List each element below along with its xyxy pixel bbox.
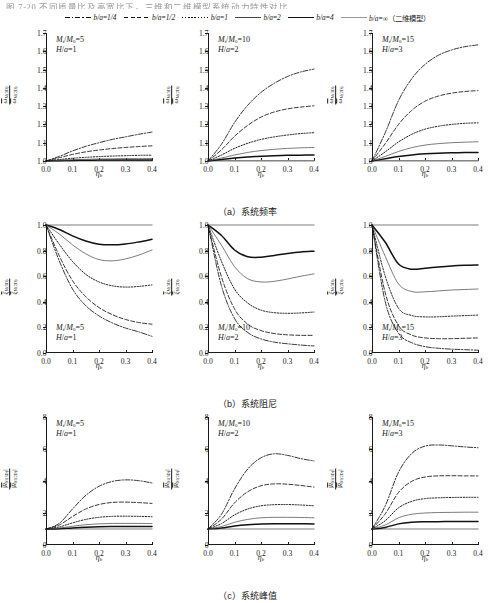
- legend-item-2: b/a=1: [182, 13, 228, 22]
- y-tick-label-a2-7: 1.7: [169, 29, 209, 38]
- x-tick-c3-4: [478, 542, 479, 546]
- y-tick-label-b3-5: 1.0: [333, 221, 373, 230]
- legend-item-1: b/a=1/2: [124, 13, 176, 22]
- series-b2-thin: [208, 225, 314, 282]
- x-tick-label-a3-1: 0.1: [394, 165, 404, 174]
- chart-panel-c3: |RM(3D)||RM(2D)|024680.00.10.20.30.4Mt/M…: [330, 411, 495, 583]
- series-a3-dashdot: [372, 45, 478, 161]
- y-tick-label-c2-2: 4: [169, 477, 209, 486]
- x-tick-label-b3-4: 0.4: [473, 357, 483, 366]
- legend-label-2: b/a=1: [211, 13, 228, 22]
- x-tick-label-c3-4: 0.4: [473, 549, 483, 558]
- y-tick-label-a1-4: 1.4: [7, 83, 47, 92]
- legend-label-5: b/a=∞（二维模型）: [369, 12, 430, 23]
- y-axis-label-b1: ξM(3D)ξM(2D): [1, 278, 19, 295]
- panel-annotation-a2: Mt/M0=10H/a=2: [218, 35, 250, 56]
- y-tick-label-b2-3: 0.6: [169, 272, 209, 281]
- y-tick-label-a2-4: 1.4: [169, 83, 209, 92]
- y-tick-label-c3-1: 2: [333, 509, 373, 518]
- row-caption-c: （c）系统峰值: [0, 589, 495, 603]
- y-tick-label-b2-5: 1.0: [169, 221, 209, 230]
- x-tick-b1-4: [152, 350, 153, 354]
- panel-annotation-b1: Mt/M0=5H/a=1: [56, 323, 84, 344]
- series-a2-dash: [208, 106, 314, 161]
- x-axis-label-a1: ηb: [96, 169, 102, 178]
- y-tick-label-c1-2: 4: [7, 477, 47, 486]
- x-tick-label-c1-1: 0.1: [68, 549, 78, 558]
- chart-panel-b3: ξM(3D)ξM(2D)0.00.20.40.60.81.00.00.10.20…: [330, 219, 495, 391]
- series-b3-thin: [372, 225, 478, 292]
- y-tick-label-b3-1: 0.2: [333, 323, 373, 332]
- y-tick-label-b2-4: 0.8: [169, 246, 209, 255]
- panel-grid: ωM(3D)ωM(2D)1.01.11.21.31.41.51.61.70.00…: [0, 27, 495, 603]
- x-axis-label-a3: ηb: [422, 169, 428, 178]
- y-tick-label-b1-5: 1.0: [7, 221, 47, 230]
- x-tick-label-a2-0: 0.0: [203, 165, 213, 174]
- legend-line-3: [235, 17, 261, 18]
- y-tick-label-b2-2: 0.4: [169, 297, 209, 306]
- x-tick-label-a2-4: 0.4: [309, 165, 319, 174]
- legend-item-3: b/a=2: [235, 13, 281, 22]
- series-b1-dash: [46, 225, 152, 324]
- series-b2-dash: [208, 225, 314, 335]
- y-tick-label-a1-2: 1.2: [7, 120, 47, 129]
- x-tick-label-a3-0: 0.0: [367, 165, 377, 174]
- x-tick-label-b1-4: 0.4: [147, 357, 157, 366]
- x-tick-label-c2-3: 0.3: [283, 549, 293, 558]
- y-tick-label-a3-6: 1.6: [333, 47, 373, 56]
- y-tick-label-c2-3: 6: [169, 445, 209, 454]
- x-tick-c2-4: [314, 542, 315, 546]
- legend-line-2: [182, 17, 208, 18]
- series-c3-dashdot: [372, 445, 478, 529]
- panel-annotation-a1: Mt/M0=5H/a=1: [56, 35, 84, 56]
- x-tick-label-b1-3: 0.3: [121, 357, 131, 366]
- series-a2-med: [208, 155, 314, 161]
- y-tick-label-a3-3: 1.3: [333, 102, 373, 111]
- row-caption-a: （a）系统频率: [0, 205, 495, 219]
- x-axis-label-c2: ηb: [258, 553, 264, 562]
- y-tick-label-a2-5: 1.5: [169, 65, 209, 74]
- chart-row-c: |RM(3D)||RM(2D)|024680.00.10.20.30.4Mt/M…: [0, 411, 495, 589]
- y-tick-label-c2-4: 8: [169, 413, 209, 422]
- legend-line-4: [288, 17, 314, 19]
- y-tick-label-a3-4: 1.4: [333, 83, 373, 92]
- y-tick-label-a1-1: 1.1: [7, 138, 47, 147]
- legend-line-1: [124, 17, 150, 18]
- x-tick-label-c3-1: 0.1: [394, 549, 404, 558]
- chart-row-a: ωM(3D)ωM(2D)1.01.11.21.31.41.51.61.70.00…: [0, 27, 495, 205]
- series-b1-med: [46, 225, 152, 245]
- y-tick-label-b1-1: 0.2: [7, 323, 47, 332]
- figure-top-caption: 图 7-20 不同质量比及高宽比下，三维和二维模型系统动力特性对比: [6, 0, 426, 9]
- x-tick-label-a1-0: 0.0: [41, 165, 51, 174]
- series-b2-med: [208, 225, 314, 258]
- y-tick-label-c3-2: 4: [333, 477, 373, 486]
- panel-annotation-a3: Mt/M0=15H/a=3: [382, 35, 414, 56]
- x-tick-b2-4: [314, 350, 315, 354]
- chart-legend: b/a=1/4b/a=1/2b/a=1b/a=2b/a=4b/a=∞（二维模型）: [0, 11, 495, 24]
- x-tick-label-c2-4: 0.4: [309, 549, 319, 558]
- x-tick-label-b1-1: 0.1: [68, 357, 78, 366]
- legend-item-4: b/a=4: [288, 13, 334, 22]
- y-tick-label-b1-3: 0.6: [7, 272, 47, 281]
- x-tick-label-c1-4: 0.4: [147, 549, 157, 558]
- x-tick-label-a2-1: 0.1: [230, 165, 240, 174]
- y-tick-label-c1-3: 6: [7, 445, 47, 454]
- legend-label-4: b/a=4: [316, 13, 333, 22]
- y-tick-label-a1-3: 1.3: [7, 102, 47, 111]
- x-tick-label-a3-3: 0.3: [447, 165, 457, 174]
- y-tick-label-b1-4: 0.8: [7, 246, 47, 255]
- x-axis-label-c3: ηb: [422, 553, 428, 562]
- y-axis-label-b3: ξM(3D)ξM(2D): [327, 278, 345, 295]
- row-caption-b: （b）系统阻尼: [0, 397, 495, 411]
- y-tick-label-a3-1: 1.1: [333, 138, 373, 147]
- chart-row-b: ξM(3D)ξM(2D)0.00.20.40.60.81.00.00.10.20…: [0, 219, 495, 397]
- x-axis-label-c1: ηb: [96, 553, 102, 562]
- y-tick-label-b3-2: 0.4: [333, 297, 373, 306]
- x-axis-label-b3: ηb: [422, 361, 428, 370]
- y-tick-label-a2-2: 1.2: [169, 120, 209, 129]
- y-tick-label-c1-4: 8: [7, 413, 47, 422]
- x-tick-label-b2-0: 0.0: [203, 357, 213, 366]
- series-a3-med: [372, 152, 478, 161]
- series-c3-med: [372, 521, 478, 529]
- x-axis-label-b1: ηb: [96, 361, 102, 370]
